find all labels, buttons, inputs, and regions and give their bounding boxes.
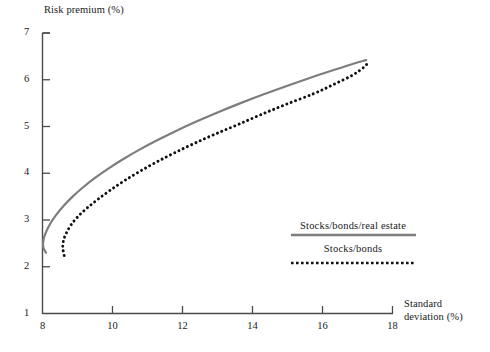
x-tick-label: 12 (173, 320, 193, 331)
axis-lines (43, 33, 394, 314)
y-tick-label: 6 (17, 73, 37, 84)
y-tick-label: 3 (17, 213, 37, 224)
chart-figure: Risk premium (%) Standarddeviation (%) S… (0, 0, 490, 352)
data-series (43, 60, 369, 255)
y-tick-label: 4 (17, 166, 37, 177)
y-tick-label: 7 (17, 26, 37, 37)
plot-area (0, 0, 490, 352)
axis-ticks (43, 33, 323, 314)
y-tick-label: 1 (17, 307, 37, 318)
series-line-2 (63, 61, 369, 255)
legend-swatches (291, 235, 416, 263)
y-tick-label: 5 (17, 120, 37, 131)
x-tick-label: 14 (243, 320, 263, 331)
x-tick-label: 16 (313, 320, 333, 331)
x-tick-label: 18 (383, 320, 403, 331)
x-tick-label: 10 (103, 320, 123, 331)
y-tick-label: 2 (17, 260, 37, 271)
series-line-1 (43, 60, 366, 253)
x-tick-label: 8 (33, 320, 53, 331)
